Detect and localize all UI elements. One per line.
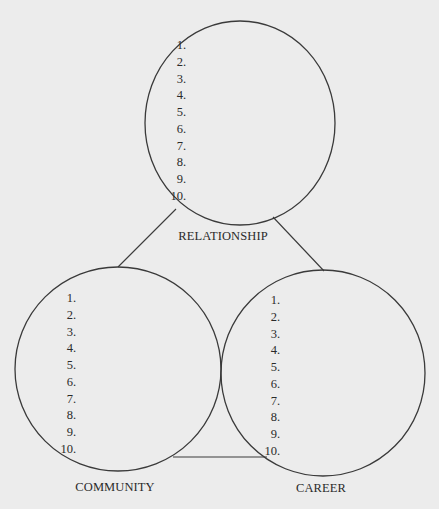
community-list: 1. 2. 3. 4. 5. 6. 7. 8. 9. 10. — [58, 290, 76, 458]
list-item: 3. — [168, 71, 186, 88]
career-circle — [221, 270, 425, 476]
list-item: 1. — [262, 292, 280, 309]
list-item: 6. — [168, 121, 186, 138]
list-item: 6. — [58, 374, 76, 391]
career-list: 1. 2. 3. 4. 5. 6. 7. 8. 9. 10. — [262, 292, 280, 460]
list-item: 2. — [168, 54, 186, 71]
list-item: 5. — [58, 357, 76, 374]
list-item: 10. — [168, 188, 186, 205]
list-item: 1. — [58, 290, 76, 307]
list-item: 8. — [58, 407, 76, 424]
relationship-list: 1. 2. 3. 4. 5. 6. 7. 8. 9. 10. — [168, 37, 186, 205]
list-item: 9. — [262, 426, 280, 443]
list-item: 5. — [262, 359, 280, 376]
list-item: 8. — [168, 154, 186, 171]
connector-relationship-community — [118, 209, 176, 267]
list-item: 9. — [168, 171, 186, 188]
list-item: 8. — [262, 409, 280, 426]
career-label: CAREER — [296, 481, 346, 496]
list-item: 7. — [168, 138, 186, 155]
community-label: COMMUNITY — [75, 480, 154, 495]
list-item: 3. — [262, 326, 280, 343]
list-item: 5. — [168, 104, 186, 121]
list-item: 4. — [262, 342, 280, 359]
relationship-label: RELATIONSHIP — [178, 229, 267, 244]
list-item: 4. — [168, 87, 186, 104]
connector-relationship-career — [273, 217, 324, 271]
community-circle — [15, 267, 221, 471]
list-item: 7. — [262, 393, 280, 410]
list-item: 7. — [58, 391, 76, 408]
list-item: 10. — [58, 441, 76, 458]
list-item: 2. — [262, 309, 280, 326]
list-item: 10. — [262, 443, 280, 460]
list-item: 6. — [262, 376, 280, 393]
list-item: 1. — [168, 37, 186, 54]
list-item: 2. — [58, 307, 76, 324]
list-item: 9. — [58, 424, 76, 441]
list-item: 3. — [58, 324, 76, 341]
list-item: 4. — [58, 340, 76, 357]
